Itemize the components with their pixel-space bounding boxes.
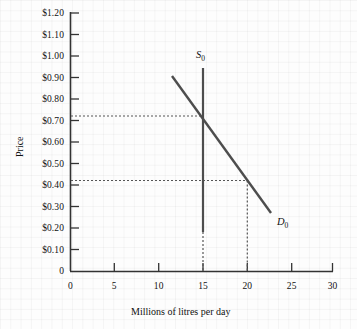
x-axis-title: Millions of litres per day [131,306,230,317]
x-tick-label-15: 15 [188,281,218,291]
price-quantity-chart: $1.20 $1.10 $1.00 $0.90 $0.80 $0.70 $0.6… [0,0,357,329]
y-tick-label-1.10: $1.10 [18,30,64,40]
x-tick-label-30: 30 [318,281,348,291]
x-tick-label-5: 5 [99,281,129,291]
x-tick-label-10: 10 [144,281,174,291]
y-tick-label-0.30: $0.30 [18,202,64,212]
demand-curve-label-text: D [277,216,285,227]
y-axis-ticks [71,13,80,250]
x-tick-label-20: 20 [232,281,262,291]
y-tick-label-0.20: $0.20 [18,223,64,233]
y-tick-label-0.50: $0.50 [18,159,64,169]
y-tick-label-0.10: $0.10 [18,245,64,255]
y-tick-label-0.40: $0.40 [18,180,64,190]
x-tick-label-25: 25 [277,281,307,291]
y-tick-label-0.70: $0.70 [18,116,64,126]
y-tick-label-1.20: $1.20 [18,8,64,18]
demand-curve-label: D0 [277,216,288,230]
demand-curve-d0 [172,76,271,213]
supply-curve-label-sub: 0 [201,54,205,63]
demand-curve-label-sub: 0 [285,221,289,230]
y-axis-title: Price [14,136,25,157]
y-tick-label-1.00: $1.00 [18,51,64,61]
y-tick-label-0: 0 [18,266,64,276]
supply-curve-label: S0 [196,49,205,63]
x-tick-label-0: 0 [56,281,86,291]
x-axis-ticks [114,263,332,272]
y-tick-label-0.90: $0.90 [18,73,64,83]
y-tick-label-0.80: $0.80 [18,94,64,104]
